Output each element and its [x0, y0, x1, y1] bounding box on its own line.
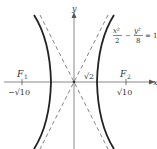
equation-minus: −: [125, 32, 131, 40]
focus-2-sub: 2: [127, 73, 131, 80]
y-axis-label: y: [71, 4, 77, 13]
hyperbola-equation: x² 2 − y² 8 = 1: [113, 27, 157, 45]
focus-1-value: −√10: [8, 88, 30, 97]
focus-2-name: F: [119, 69, 127, 79]
equation-x-numerator: x²: [113, 27, 120, 35]
origin-point: [73, 81, 76, 84]
equation-x-denominator: 2: [115, 37, 119, 45]
equation-equals: = 1: [145, 32, 157, 40]
x-axis-label: x: [153, 78, 157, 87]
equation-y-denominator: 8: [136, 37, 140, 45]
hyperbola-diagram: y x F 1 −√10 F 2 √10 √2 x² 2 − y² 8 = 1: [0, 0, 157, 149]
vertex-label: √2: [84, 72, 94, 81]
focus-1-sub: 1: [24, 73, 28, 80]
focus-1-name: F: [16, 69, 24, 79]
equation-y-numerator: y²: [133, 27, 141, 35]
focus-2-value: √10: [117, 88, 132, 97]
